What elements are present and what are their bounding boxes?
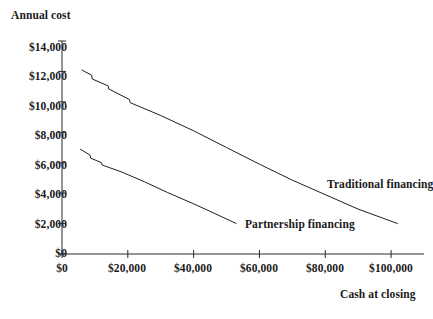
data-line-traditional-financing [82,70,398,224]
data-line-partnership-financing [80,149,236,224]
plot-area [0,0,433,319]
chart-container: Annual cost Cash at closing $14,000 $12,… [0,0,433,319]
